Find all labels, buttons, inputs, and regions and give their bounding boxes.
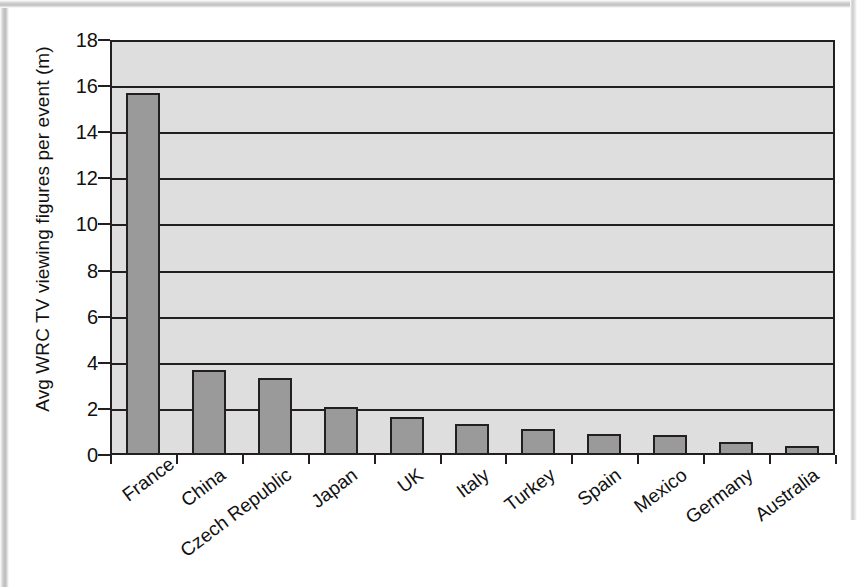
y-tick-mark xyxy=(98,316,110,318)
y-tick-mark xyxy=(98,85,110,87)
gridline xyxy=(112,224,833,226)
y-tick-mark xyxy=(98,39,110,41)
plot-area xyxy=(110,40,835,455)
gridline xyxy=(112,132,833,134)
x-tick-mark xyxy=(571,455,573,464)
x-axis-labels: FranceChinaCzech RepublicJapanUKItalyTur… xyxy=(110,464,835,574)
x-tick-mark xyxy=(374,455,376,464)
y-tick-label: 10 xyxy=(0,213,110,236)
x-tick-mark xyxy=(769,455,771,464)
x-tick-mark xyxy=(703,455,705,464)
x-tick-label: France xyxy=(118,464,164,506)
y-tick-mark xyxy=(98,362,110,364)
gridline xyxy=(112,178,833,180)
x-tick-mark xyxy=(835,455,837,464)
y-tick-mark xyxy=(98,223,110,225)
x-tick-mark xyxy=(110,455,112,464)
gridline xyxy=(112,317,833,319)
y-tick-mark xyxy=(98,408,110,410)
y-tick-mark xyxy=(98,454,110,456)
x-tick-mark xyxy=(440,455,442,464)
y-tick-label: 2 xyxy=(0,397,110,420)
y-tick-label: 12 xyxy=(0,167,110,190)
gridline xyxy=(112,271,833,273)
y-tick-mark xyxy=(98,270,110,272)
y-tick-mark xyxy=(98,177,110,179)
scanned-page: Avg WRC TV viewing figures per event (m)… xyxy=(0,0,857,587)
y-tick-label: 4 xyxy=(0,351,110,374)
x-tick-mark xyxy=(308,455,310,464)
x-tick-mark xyxy=(176,455,178,464)
x-axis-ticks xyxy=(110,455,835,464)
y-tick-label: 16 xyxy=(0,75,110,98)
x-tick-mark xyxy=(242,455,244,464)
y-tick-label: 6 xyxy=(0,305,110,328)
gridline xyxy=(112,409,833,411)
bar-chart: Avg WRC TV viewing figures per event (m)… xyxy=(0,0,857,587)
y-tick-label: 14 xyxy=(0,121,110,144)
y-tick-label: 18 xyxy=(0,29,110,52)
x-tick-mark xyxy=(505,455,507,464)
y-tick-label: 8 xyxy=(0,259,110,282)
gridline xyxy=(112,86,833,88)
gridline xyxy=(112,363,833,365)
y-tick-label: 0 xyxy=(0,444,110,467)
y-tick-mark xyxy=(98,131,110,133)
x-tick-mark xyxy=(637,455,639,464)
